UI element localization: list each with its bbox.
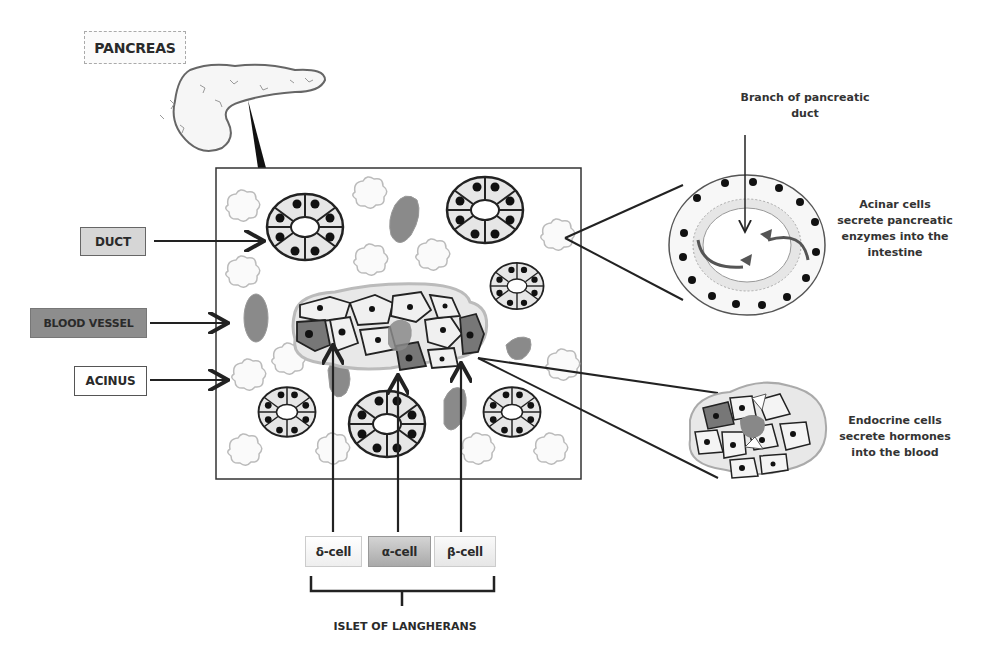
endocrine-description: Endocrine cells secrete hormones into th…: [835, 413, 955, 461]
blood-vessel-label: BLOOD VESSEL: [30, 308, 147, 338]
islet-of-langerhans: [293, 284, 487, 370]
pancreas-label: PANCREAS: [84, 31, 186, 64]
acinus-zoom: [669, 135, 825, 315]
delta-cell-label: δ-cell: [305, 536, 362, 567]
acinar-description: Acinar cells secrete pancreatic enzymes …: [835, 197, 955, 261]
islet-brace: [311, 576, 494, 606]
acinus-label: ACINUS: [74, 366, 147, 396]
beta-cell-label: β-cell: [434, 536, 496, 567]
pancreas-illustration: [160, 65, 325, 168]
endocrine-zoom: [690, 383, 826, 478]
duct-label: DUCT: [80, 227, 146, 256]
islet-title: ISLET OF LANGHERANS: [325, 620, 485, 633]
branch-duct-description: Branch of pancreatic duct: [735, 90, 875, 122]
alpha-cell-label: α-cell: [368, 536, 431, 567]
